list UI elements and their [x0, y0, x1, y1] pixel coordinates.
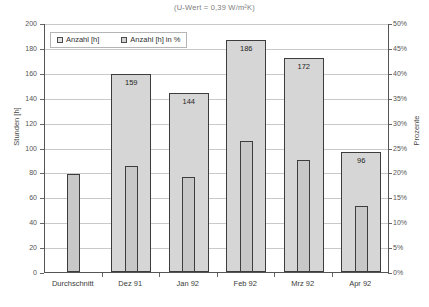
bar-group: 159	[103, 24, 161, 272]
bar-anzahl-h-prozent[interactable]	[355, 206, 368, 272]
bar-group: 96	[333, 24, 391, 272]
x-axis-tick-label: Durchschnitt	[44, 279, 102, 288]
y-axis-tick-label-right: 5%	[393, 244, 403, 252]
y-axis-tick-label-left: 200	[25, 20, 37, 28]
chart-legend: Anzahl [h] Anzahl [h] in %	[50, 32, 187, 48]
y-axis-label-right: Prozente	[412, 107, 421, 155]
bar-anzahl-h-prozent[interactable]	[67, 174, 80, 272]
legend-entry-anzahl-h: Anzahl [h]	[57, 35, 99, 44]
y-axis-tick-label-left: 120	[25, 120, 37, 128]
y-axis-tick-label-left: 0	[33, 269, 37, 277]
legend-label: Anzahl [h] in %	[130, 35, 180, 44]
bar-value-label: 186	[227, 44, 265, 53]
bar-group	[45, 24, 103, 272]
bar-value-label: 144	[170, 97, 208, 106]
y-axis-tick-label-left: 80	[29, 169, 37, 177]
x-axis-tick-label: Mrz 92	[274, 279, 332, 288]
x-axis-labels: DurchschnittDez 91Jan 92Feb 92Mrz 92Apr …	[44, 279, 389, 295]
bars-layer: 15914418617296	[45, 24, 388, 272]
y-axis-tick-label-left: 20	[29, 244, 37, 252]
bar-chart: (U-Wert = 0,39 W/m²K) Stunden [h] Prozen…	[0, 0, 429, 307]
legend-label: Anzahl [h]	[66, 35, 99, 44]
y-axis-label-left: Stunden [h]	[12, 97, 21, 157]
y-axis-tick-label-right: 0%	[393, 269, 403, 277]
y-axis-tick-label-right: 40%	[393, 70, 407, 78]
bar-anzahl-h-prozent[interactable]	[297, 160, 310, 272]
bar-anzahl-h-prozent[interactable]	[125, 166, 138, 272]
legend-swatch-icon	[121, 37, 127, 43]
y-axis-tick-label-right: 15%	[393, 194, 407, 202]
y-axis-tick-label-right: 10%	[393, 219, 407, 227]
legend-entry-anzahl-h-prozent: Anzahl [h] in %	[121, 35, 180, 44]
bar-value-label: 159	[112, 78, 150, 87]
y-axis-tick-label-right: 20%	[393, 169, 407, 177]
bar-value-label: 96	[342, 156, 380, 165]
legend-swatch-icon	[57, 37, 63, 43]
x-axis-tick-mark	[332, 273, 333, 277]
plot-area: 15914418617296	[44, 24, 389, 273]
y-axis-tick-label-left: 40	[29, 219, 37, 227]
y-axis-tick-label-right: 30%	[393, 120, 407, 128]
x-axis-tick-mark	[274, 273, 275, 277]
y-axis-tick-label-right: 50%	[393, 20, 407, 28]
x-axis-tick-label: Apr 92	[332, 279, 390, 288]
x-axis-tick-mark	[159, 273, 160, 277]
bar-group: 186	[218, 24, 276, 272]
chart-title: (U-Wert = 0,39 W/m²K)	[0, 3, 429, 12]
x-axis-tick-mark	[102, 273, 103, 277]
bar-anzahl-h-prozent[interactable]	[182, 177, 195, 272]
x-axis-tick-label: Jan 92	[159, 279, 217, 288]
y-axis-tick-label-right: 25%	[393, 145, 407, 153]
y-axis-tick-label-left: 180	[25, 45, 37, 53]
x-axis-tick-label: Dez 91	[102, 279, 160, 288]
x-axis-tick-mark	[217, 273, 218, 277]
x-axis-tick-label: Feb 92	[217, 279, 275, 288]
bar-value-label: 172	[285, 62, 323, 71]
y-axis-tick-label-left: 100	[25, 145, 37, 153]
bar-group: 172	[275, 24, 333, 272]
y-axis-tick-label-left: 60	[29, 194, 37, 202]
bar-group: 144	[160, 24, 218, 272]
y-axis-tick-mark-left	[40, 273, 44, 274]
y-axis-tick-mark-right	[388, 273, 392, 274]
bar-anzahl-h-prozent[interactable]	[240, 141, 253, 272]
y-axis-tick-label-right: 35%	[393, 95, 407, 103]
y-axis-tick-label-right: 45%	[393, 45, 407, 53]
y-axis-tick-label-left: 140	[25, 95, 37, 103]
y-axis-tick-label-left: 160	[25, 70, 37, 78]
